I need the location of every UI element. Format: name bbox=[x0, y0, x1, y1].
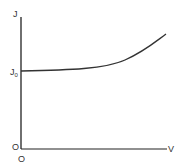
origin-y-label: O bbox=[12, 142, 19, 152]
y-axis-label: J bbox=[13, 9, 18, 19]
y-intercept-label: J0 bbox=[10, 67, 19, 78]
origin-x-label: O bbox=[18, 154, 25, 164]
x-axis-label: V bbox=[168, 144, 174, 154]
j-v-curve bbox=[21, 34, 166, 71]
chart: J J0 O O V bbox=[0, 0, 183, 168]
